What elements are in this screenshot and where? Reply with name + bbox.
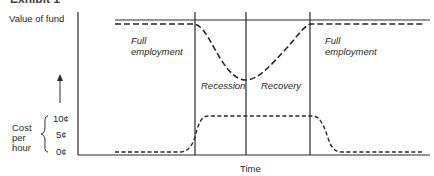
cost-tick-5: 5¢ bbox=[56, 129, 67, 140]
cost-per-hour-curve bbox=[115, 116, 422, 152]
cost-label-line3: hour bbox=[12, 142, 31, 153]
phase-right-line2: employment bbox=[325, 46, 377, 57]
value-of-fund-label: Value of fund bbox=[9, 13, 64, 24]
phase-left-line1: Full bbox=[131, 35, 146, 46]
up-arrow-icon bbox=[57, 74, 63, 81]
time-axis-label: Time bbox=[240, 163, 261, 174]
phase-left-line2: employment bbox=[131, 46, 183, 57]
phase-recession: Recession bbox=[201, 80, 245, 91]
brace-icon bbox=[41, 116, 48, 152]
cost-tick-0: 0¢ bbox=[56, 146, 67, 157]
phase-right-line1: Full bbox=[325, 35, 340, 46]
cost-tick-10: 10¢ bbox=[53, 113, 69, 124]
phase-recovery: Recovery bbox=[261, 80, 301, 91]
